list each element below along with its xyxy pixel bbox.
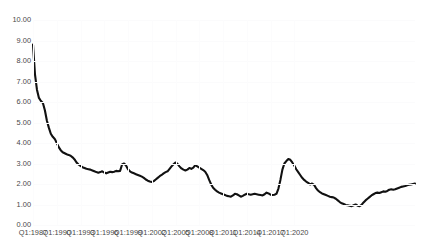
- vertical-gridline: [152, 20, 153, 225]
- y-axis-tick-label: 4.00: [1, 139, 31, 147]
- vertical-gridline: [104, 20, 105, 225]
- gridline: [33, 184, 415, 185]
- gridline: [33, 164, 415, 165]
- vertical-gridline: [57, 20, 58, 225]
- vertical-gridline: [176, 20, 177, 225]
- x-axis-tick-label: Q1:2020: [280, 228, 308, 237]
- gridline: [33, 102, 415, 103]
- gridline: [33, 143, 415, 144]
- line-chart: 10.009.008.007.006.005.004.003.002.001.0…: [0, 0, 424, 246]
- x-axis: Q1:1987Q1:1990Q1:1993Q1:1996Q1:1999Q1:20…: [0, 228, 424, 242]
- y-axis-tick-label: 3.00: [1, 160, 31, 168]
- gridline: [33, 20, 415, 21]
- plot-area: [33, 20, 415, 225]
- gridline: [33, 82, 415, 83]
- vertical-gridline: [81, 20, 82, 225]
- y-axis-tick-label: 7.00: [1, 78, 31, 86]
- y-axis-tick-label: 2.00: [1, 180, 31, 188]
- vertical-gridline: [33, 20, 34, 225]
- vertical-gridline: [247, 20, 248, 225]
- y-axis-tick-label: 5.00: [1, 119, 31, 127]
- gridline: [33, 205, 415, 206]
- gridline: [33, 123, 415, 124]
- y-axis-tick-label: 8.00: [1, 57, 31, 65]
- gridline: [33, 61, 415, 62]
- y-axis-tick-label: 6.00: [1, 98, 31, 106]
- y-axis-tick-label: 10.00: [1, 16, 31, 24]
- vertical-gridline: [223, 20, 224, 225]
- gridline: [33, 225, 415, 226]
- chart-title: [0, 0, 424, 5]
- y-axis-tick-label: 1.00: [1, 201, 31, 209]
- gridline: [33, 41, 415, 42]
- vertical-gridline: [199, 20, 200, 225]
- y-axis-tick-label: 9.00: [1, 37, 31, 45]
- y-axis: 10.009.008.007.006.005.004.003.002.001.0…: [0, 0, 31, 246]
- vertical-gridline: [294, 20, 295, 225]
- vertical-gridline: [271, 20, 272, 225]
- vertical-gridline: [128, 20, 129, 225]
